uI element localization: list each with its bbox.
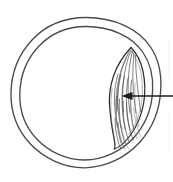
vessel-cross-section-diagram <box>0 0 173 182</box>
figure-root: Cross-sectional line drawing of a circul… <box>0 0 173 182</box>
figure-background <box>0 0 173 182</box>
